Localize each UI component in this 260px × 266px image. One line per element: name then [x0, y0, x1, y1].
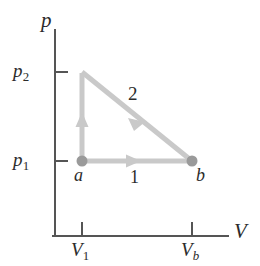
y-tick-label-p2: p2: [13, 61, 29, 80]
y-tick-label-p1: p1: [13, 150, 29, 169]
y-tick-label-p2-sub: 2: [23, 69, 29, 84]
pv-diagram-canvas: [0, 0, 260, 266]
x-tick-label-Vb-main: V: [181, 239, 193, 260]
process-path-1: [82, 155, 192, 168]
pv-diagram-figure: p p2 p1 a b 1 2 V V1 Vb: [0, 0, 260, 266]
y-tick-label-p2-main: p: [13, 60, 23, 81]
y-tick-label-p1-main: p: [13, 149, 23, 170]
path-2-vertical-arrowhead: [76, 112, 89, 127]
x-axis-label: V: [234, 221, 247, 242]
y-tick-label-p1-sub: 1: [23, 158, 29, 173]
x-tick-label-V1-main: V: [71, 239, 83, 260]
path-2-label: 2: [128, 84, 138, 103]
x-tick-label-V1-sub: 1: [83, 248, 89, 263]
state-point-b-label: b: [196, 166, 205, 184]
state-point-a-label: a: [74, 166, 83, 184]
x-tick-label-Vb-sub: b: [193, 248, 199, 263]
x-tick-label-Vb: Vb: [181, 240, 199, 259]
x-tick-label-V1: V1: [71, 240, 89, 259]
axis-group: [52, 29, 229, 237]
y-axis-label: p: [41, 10, 52, 31]
y-tick-group: [55, 72, 68, 161]
path-1-label: 1: [130, 168, 139, 186]
x-tick-group: [82, 222, 192, 236]
path-1-arrowhead: [126, 155, 141, 168]
